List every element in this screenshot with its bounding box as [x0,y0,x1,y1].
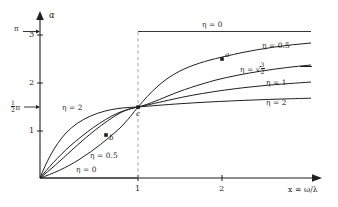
curve-label-eta-2-right: η = 2 [266,99,287,106]
sqrt-fraction: 32 [261,62,265,75]
sqrt-radical-icon: √ [256,66,261,73]
phase-angle-figure: α x = ω/λ 1 2 1 2 3 π 1 2 π η = 0 η = 0.… [0,0,338,207]
y-label-half-pi: 1 2 π [11,100,20,113]
curve-label-eta-1-right: η = 1 [266,79,287,86]
sqrt-denominator: 2 [261,68,265,75]
y-tick-label-1: 1 [29,126,34,134]
curve-label-eta-0p5-left: η = 0.5 [90,152,118,159]
curve-label-eta-sqrt-prefix: η = [240,65,253,74]
x-tick-label-1: 1 [135,184,140,192]
y-label-pi: π [14,26,19,33]
curve-label-eta-0-bottom: η = 0 [76,166,97,173]
point-label-a: a [225,51,229,58]
half-pi-denominator: 2 [11,106,15,113]
curve-label-eta-0-top: η = 0 [202,21,223,28]
y-tick-label-2: 2 [29,78,34,86]
curve-eta-1 [40,82,311,178]
y-axis-label: α [49,11,55,19]
x-tick-label-2: 2 [219,184,224,192]
half-pi-symbol: π [16,104,21,112]
curve-label-eta-2-left: η = 2 [62,104,83,111]
chart-canvas [0,0,338,207]
x-axis-label: x = ω/λ [288,186,318,194]
x-axis-label-eq: = [295,185,301,194]
point-label-c: c [136,110,140,117]
y-tick-label-3: 3 [29,30,34,38]
x-axis-label-var: x [288,185,292,194]
point-label-b: b [109,134,114,141]
point-b-marker [104,133,108,137]
half-pi-pointer-arrow [24,105,40,109]
point-a-marker [220,57,224,61]
y-axis [36,11,44,178]
x-axis-label-den: λ [313,185,318,194]
curve-label-eta-0p5-right: η = 0.5 [262,42,290,49]
half-pi-fraction: 1 2 [11,100,15,113]
curve-label-eta-sqrt3over2: η = √32 [240,62,265,75]
